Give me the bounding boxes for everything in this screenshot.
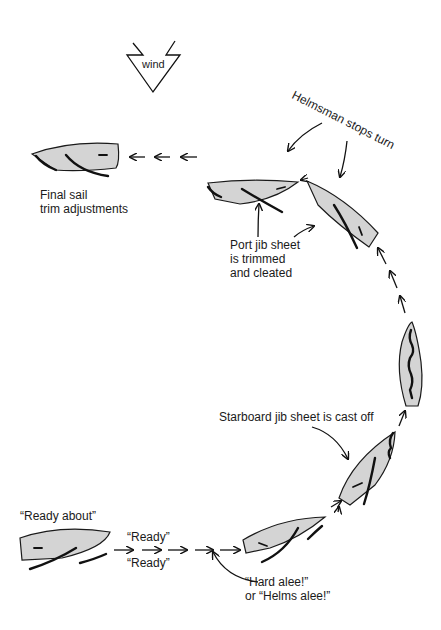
boat-hard-alee <box>243 517 325 562</box>
pointer-port-jib-1 <box>258 204 259 237</box>
hard-alee-label-line1: “Hard alee!” <box>245 575 308 590</box>
final-trim-label-line1: Final sail <box>40 188 87 203</box>
port-jib-label-line3: and cleated <box>230 266 292 281</box>
boat-ready-about <box>20 529 110 569</box>
pointer-helmsman-1 <box>288 123 322 151</box>
pointer-helmsman-2 <box>340 141 347 177</box>
ready-about-label: “Ready about” <box>20 509 96 524</box>
pointer-port-jib-2 <box>294 226 314 237</box>
starboard-jib-label: Starboard jib sheet is cast off <box>219 410 374 425</box>
pointer-starboard-jib <box>312 427 348 459</box>
port-jib-label-line2: is trimmed <box>230 252 285 267</box>
boat-head-to-wind <box>399 322 422 406</box>
boat-final-trim <box>32 143 119 176</box>
boat-jib-cast-off <box>339 432 395 505</box>
wind-label: wind <box>142 57 165 72</box>
boat-port-jib-trimmed <box>307 181 378 248</box>
turn-arrows-right <box>378 248 405 313</box>
ready-label-upper: “Ready” <box>127 530 170 545</box>
hard-alee-label-line2: or “Helms alee!” <box>245 589 330 604</box>
port-jib-label-line1: Port jib sheet <box>230 238 300 253</box>
ready-label-lower: “Ready” <box>127 556 170 571</box>
boat-helmsman-stops <box>208 180 298 212</box>
final-trim-label-line2: trim adjustments <box>40 202 128 217</box>
tacking-diagram <box>0 0 441 630</box>
